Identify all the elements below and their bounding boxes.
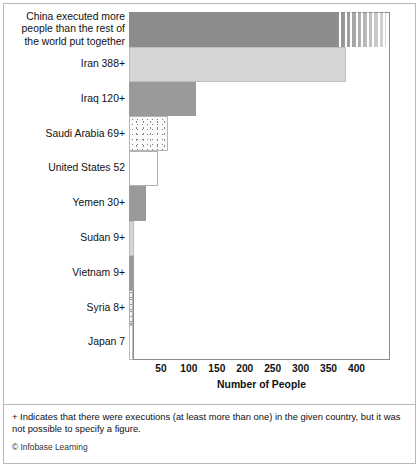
bar-row: United States 52: [0, 151, 419, 186]
x-tick-label: 400: [348, 363, 365, 374]
bar-sudan: [129, 221, 134, 256]
bar-row: Iraq 120+: [0, 82, 419, 117]
bar-cell: [129, 151, 419, 186]
bar-category-label: Saudi Arabia 69+: [0, 128, 129, 140]
x-tick-label: 300: [292, 363, 309, 374]
bar-cell: [129, 256, 419, 291]
bar-category-label: Iraq 120+: [0, 93, 129, 105]
bar-cell: [129, 82, 419, 117]
x-axis-ticks: 50100150200250300350400: [133, 363, 390, 377]
bar-row: Saudi Arabia 69+: [0, 116, 419, 151]
bar-rows: China executed more people than the rest…: [0, 12, 419, 360]
x-tick-label: 350: [320, 363, 337, 374]
x-tick-label: 100: [180, 363, 197, 374]
bar-syria: [129, 290, 133, 325]
bar-category-label: United States 52: [0, 162, 129, 174]
bar-row: Japan 7: [0, 325, 419, 360]
bar-cell: [129, 47, 419, 82]
bar-iran: [129, 47, 346, 82]
footnote-text: + Indicates that there were executions (…: [12, 411, 408, 435]
bar-category-label: Syria 8+: [0, 302, 129, 314]
x-tick-label: 250: [264, 363, 281, 374]
bar-category-label: Iran 388+: [0, 58, 129, 70]
chart-page: China executed more people than the rest…: [0, 0, 419, 467]
bar-row: Vietnam 9+: [0, 256, 419, 291]
copyright-text: © Infobase Learning: [12, 442, 88, 452]
bar-cell: [129, 12, 419, 47]
bar-category-label: Japan 7: [0, 336, 129, 348]
bar-category-label: China executed more people than the rest…: [0, 11, 129, 48]
bar-cell: [129, 186, 419, 221]
bar-cell: [129, 221, 419, 256]
x-axis-title: Number of People: [133, 379, 390, 390]
bar-vietnam: [129, 256, 134, 291]
bar-iraq: [129, 82, 196, 117]
x-tick-label: 200: [236, 363, 253, 374]
bar-yemen: [129, 186, 146, 221]
bar-row: Sudan 9+: [0, 221, 419, 256]
bar-cell: [129, 290, 419, 325]
bar-china-offscale-tail: [336, 12, 386, 47]
bar-cell: [129, 325, 419, 360]
bar-category-label: Vietnam 9+: [0, 267, 129, 279]
bar-china: [129, 12, 336, 47]
bar-japan: [129, 325, 133, 360]
bar-row: China executed more people than the rest…: [0, 12, 419, 47]
bar-united-states: [129, 151, 158, 186]
x-tick-label: 50: [155, 363, 166, 374]
x-tick-label: 150: [208, 363, 225, 374]
bar-row: Yemen 30+: [0, 186, 419, 221]
bar-category-label: Sudan 9+: [0, 232, 129, 244]
note-separator: [4, 404, 415, 405]
bar-row: Syria 8+: [0, 290, 419, 325]
bar-row: Iran 388+: [0, 47, 419, 82]
bar-category-label: Yemen 30+: [0, 197, 129, 209]
bar-saudi-arabia: [129, 116, 168, 151]
bar-chart: China executed more people than the rest…: [0, 0, 419, 400]
bar-cell: [129, 116, 419, 151]
